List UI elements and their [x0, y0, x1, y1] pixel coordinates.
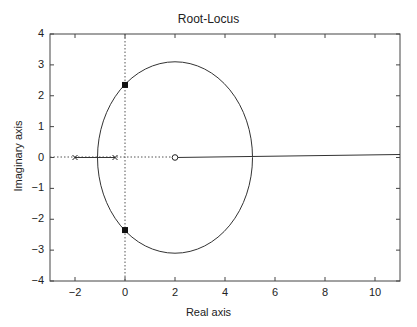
- y-tick-label: −3: [22, 243, 44, 255]
- y-tick-label: −4: [22, 274, 44, 286]
- x-tick-label: 8: [310, 286, 340, 298]
- y-tick-label: 2: [22, 89, 44, 101]
- x-tick-label: 10: [360, 286, 390, 298]
- axis-crossing-marker: [122, 82, 128, 88]
- y-tick-label: 4: [22, 27, 44, 39]
- x-tick-label: 4: [210, 286, 240, 298]
- x-tick-label: −2: [60, 286, 90, 298]
- x-tick-label: 6: [260, 286, 290, 298]
- x-axis-label: Real axis: [0, 306, 417, 318]
- y-tick-label: −2: [22, 212, 44, 224]
- y-tick-label: 0: [22, 151, 44, 163]
- y-tick-label: 1: [22, 120, 44, 132]
- plot-canvas: [0, 0, 417, 327]
- chart-title: Root-Locus: [0, 12, 417, 26]
- zero-o-marker: [172, 155, 178, 161]
- axis-crossing-marker: [122, 227, 128, 233]
- x-tick-label: 0: [110, 286, 140, 298]
- y-tick-label: 3: [22, 58, 44, 70]
- x-tick-label: 2: [160, 286, 190, 298]
- y-tick-label: −1: [22, 181, 44, 193]
